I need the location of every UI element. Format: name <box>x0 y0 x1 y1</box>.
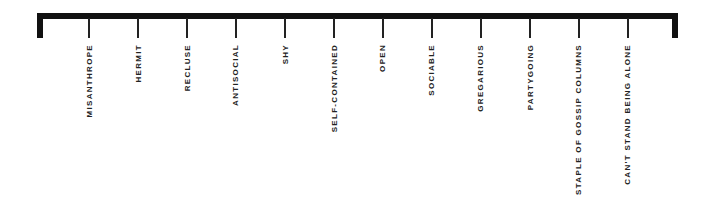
scale-tick <box>480 18 482 38</box>
right-end-cap <box>672 13 678 38</box>
scale-label-text: SOCIABLE <box>428 44 437 96</box>
scale-bar <box>37 13 678 19</box>
scale-label-text: GREGARIOUS <box>477 44 486 112</box>
scale-label-text: SHY <box>281 44 290 64</box>
scale-label-text: ANTISOCIAL <box>232 44 241 106</box>
scale-tick <box>431 18 433 38</box>
scale-label-text: OPEN <box>379 44 388 72</box>
scale-label-text: RECLUSE <box>183 44 192 91</box>
scale-tick <box>88 18 90 38</box>
scale-label-text: STAPLE OF GOSSIP COLUMNS <box>575 44 584 195</box>
scale-tick <box>578 18 580 38</box>
left-end-cap <box>37 13 43 38</box>
scale-tick <box>382 18 384 38</box>
scale-tick <box>235 18 237 38</box>
scale-tick <box>186 18 188 38</box>
scale-label-text: HERMIT <box>134 44 143 82</box>
scale-tick <box>284 18 286 38</box>
scale-tick <box>137 18 139 38</box>
scale-label-text: CAN'T STAND BEING ALONE <box>624 44 633 185</box>
sociability-scale: MISANTHROPEHERMITRECLUSEANTISOCIALSHYSEL… <box>0 0 709 197</box>
scale-label-text: SELF-CONTAINED <box>330 44 339 132</box>
scale-tick <box>627 18 629 38</box>
scale-label-text: MISANTHROPE <box>85 44 94 117</box>
scale-tick <box>333 18 335 38</box>
scale-label-text: PARTYGOING <box>526 44 535 110</box>
scale-tick <box>529 18 531 38</box>
